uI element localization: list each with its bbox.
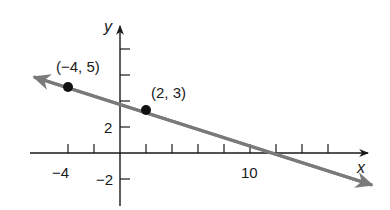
point-label-neg4-5: (−4, 5): [56, 58, 100, 75]
x-tick-label-neg4: −4: [52, 164, 69, 181]
point-label-2-3: (2, 3): [151, 84, 186, 101]
data-line-right-arrow: [34, 77, 372, 185]
y-ticks: [120, 49, 130, 179]
point-2-3: [141, 105, 151, 115]
coordinate-plane: −4 10 2 −2 x y (−4, 5) (2, 3): [0, 0, 390, 210]
point-neg4-5: [63, 82, 73, 92]
y-tick-label-neg2: −2: [96, 171, 113, 188]
x-ticks: [68, 144, 328, 153]
y-axis-label: y: [103, 18, 113, 35]
x-tick-label-10: 10: [241, 164, 258, 181]
x-axis-label: x: [356, 159, 366, 176]
y-tick-label-2: 2: [104, 119, 112, 136]
